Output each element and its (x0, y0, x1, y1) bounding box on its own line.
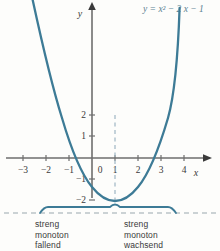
x-tick-label: −1 (64, 165, 74, 175)
x-tick-label: −2 (41, 165, 51, 175)
x-tick-label: 4 (182, 165, 187, 175)
function-graph-figure: −3 −2 −1 0 1 2 3 4 2 1 −1 −2 x y y = x² … (0, 0, 220, 251)
y-tick-label: 2 (81, 110, 86, 120)
equation-annotation: y = x² − 2 x − 1 (142, 4, 204, 14)
x-tick-label: 2 (136, 165, 141, 175)
x-tick-label-group: −3 −2 −1 0 1 2 3 4 (18, 165, 187, 175)
caption-strictly-increasing: streng monoton wachsend (124, 219, 163, 251)
parabola-plot: −3 −2 −1 0 1 2 3 4 2 1 −1 −2 x y y = x² … (0, 0, 220, 251)
x-tick-label-zero: 0 (98, 165, 103, 175)
y-tick-label: −2 (76, 195, 86, 205)
x-tick-label: −3 (18, 165, 28, 175)
y-axis-label: y (77, 8, 83, 19)
y-tick-label: 1 (81, 131, 86, 141)
caption-strictly-decreasing: streng monoton fallend (35, 219, 69, 251)
x-axis-label: x (193, 167, 199, 178)
x-tick-label: 3 (159, 165, 164, 175)
